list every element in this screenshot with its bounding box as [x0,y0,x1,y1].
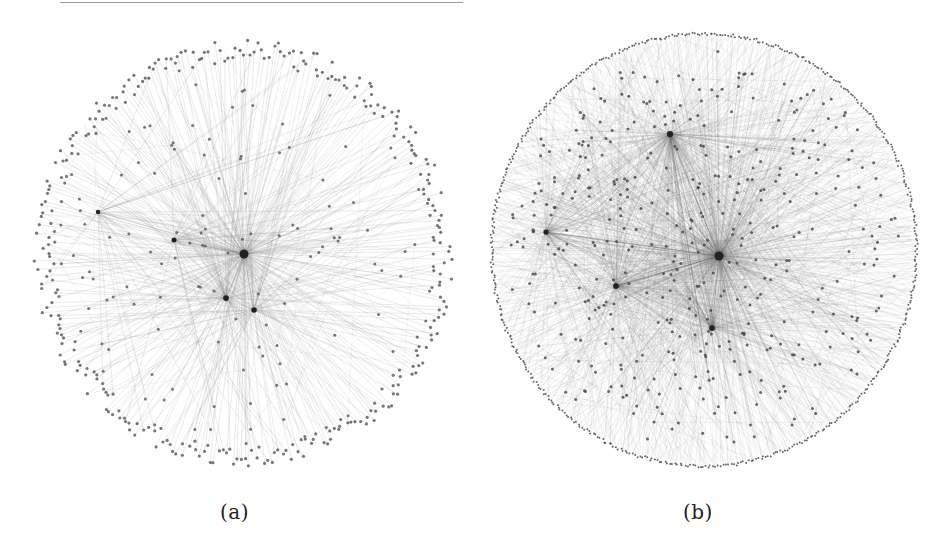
figure: (a) (b) [0,0,951,544]
hub-node [251,307,257,313]
network-graph-b-canvas [484,28,924,472]
hub-node [96,210,101,215]
hub-node [667,131,673,137]
hub-node [715,252,724,261]
hub-node [613,283,619,289]
top-rule-divider [60,2,463,3]
network-graph-b [484,28,924,472]
network-graph-a-canvas [28,30,460,470]
hub-node [543,229,548,234]
subfigure-caption-a: (a) [220,500,249,524]
subfigure-caption-b: (b) [683,500,713,524]
hub-node [240,250,249,259]
hub-node [172,238,177,243]
network-graph-a [28,30,460,470]
hub-node [709,325,715,331]
hub-node [223,295,229,301]
